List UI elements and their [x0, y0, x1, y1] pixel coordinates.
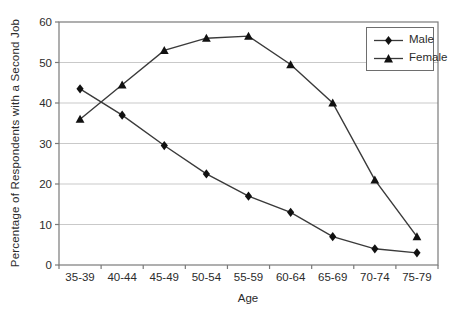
x-tick-label: 70-74: [360, 271, 390, 283]
x-tick-label: 65-69: [318, 271, 347, 283]
x-axis-title: Age: [238, 292, 258, 304]
legend-entry-male: Male: [373, 34, 433, 46]
legend-entry-female: Female: [373, 52, 433, 64]
male-series-marker: [161, 141, 168, 150]
male-series-marker: [329, 232, 336, 241]
x-tick-label: 45-49: [150, 271, 179, 283]
male-series-marker: [203, 169, 210, 178]
y-axis-title: Percentage of Respondents with a Second …: [9, 19, 21, 267]
x-tick-label: 60-64: [276, 271, 306, 283]
x-tick-label: 35-39: [65, 271, 94, 283]
male-series-marker: [287, 208, 294, 217]
y-tick-label: 20: [39, 178, 52, 190]
x-tick-label: 50-54: [192, 271, 222, 283]
y-tick-label: 30: [39, 138, 52, 150]
female-series-marker: [370, 176, 379, 184]
male-series-marker: [245, 192, 252, 201]
y-tick-label: 0: [46, 259, 52, 271]
y-tick-label: 10: [39, 219, 52, 231]
y-tick-label: 40: [39, 97, 52, 109]
legend-label-male: Male: [409, 34, 434, 46]
x-tick-label: 75-79: [402, 271, 431, 283]
female-series-marker-icon: [373, 53, 404, 64]
legend-label-female: Female: [409, 52, 447, 64]
second-job-line-chart: 010203040506035-3940-4445-4950-5455-5960…: [0, 0, 459, 322]
x-tick-label: 55-59: [234, 271, 263, 283]
male-series-marker-icon: [373, 35, 404, 46]
male-series-marker: [413, 248, 420, 257]
x-tick-label: 40-44: [107, 271, 137, 283]
female-series-marker: [286, 60, 295, 68]
male-series-marker: [76, 84, 83, 93]
male-series-marker: [119, 111, 126, 120]
male-series-marker: [371, 244, 378, 253]
male-series-line: [80, 89, 417, 253]
y-tick-label: 50: [39, 57, 52, 69]
y-tick-label: 60: [39, 16, 52, 28]
legend: Male Female: [366, 27, 434, 71]
